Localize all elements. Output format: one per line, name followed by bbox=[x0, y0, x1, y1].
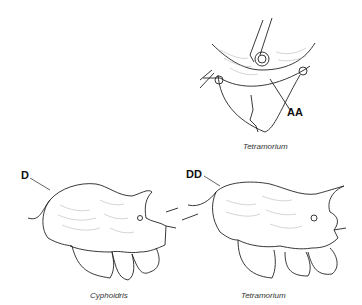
ant-illustrations bbox=[0, 0, 362, 305]
caption-tetramorium-top: Tetramorium bbox=[243, 142, 288, 151]
label-aa: AA bbox=[287, 106, 303, 118]
label-d: D bbox=[21, 169, 29, 181]
caption-tetramorium-bottom: Tetramorium bbox=[241, 291, 286, 300]
panel-cyphoidris-drawing bbox=[28, 184, 178, 280]
label-dd: DD bbox=[186, 168, 202, 180]
label-leader-d bbox=[30, 178, 50, 190]
panel-tetramorium-bottom-drawing bbox=[182, 182, 346, 278]
caption-cyphoidris: Cyphoidris bbox=[90, 291, 128, 300]
label-leader-dd bbox=[204, 176, 220, 186]
